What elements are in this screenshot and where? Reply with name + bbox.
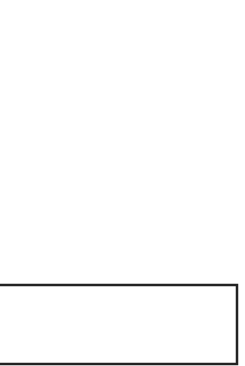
base-box (0, 285, 237, 364)
pole-diagram (0, 0, 245, 366)
